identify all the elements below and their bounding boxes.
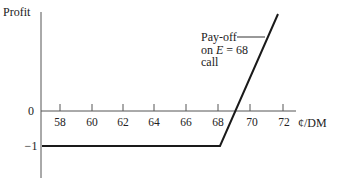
- tick-label: 70: [246, 116, 258, 128]
- annotation-line-1: Pay-off: [201, 30, 237, 44]
- x-axis-label: ¢/DM: [298, 116, 327, 130]
- x-ticks: [60, 104, 283, 111]
- tick-label: 66: [180, 116, 192, 128]
- x-tick-labels: 58 60 62 64 66 68 70 72: [54, 116, 290, 128]
- tick-label: 62: [117, 116, 129, 128]
- tick-label: 68: [212, 116, 224, 128]
- y-tick-zero: 0: [28, 104, 34, 118]
- tick-label: 64: [148, 116, 160, 128]
- annotation-line-3: call: [201, 55, 219, 69]
- y-tick-minus-one: −1: [25, 139, 38, 153]
- payoff-line: [42, 14, 278, 146]
- payoff-chart: 58 60 62 64 66 68 70 72 ¢/DM Profit 0 −1…: [0, 0, 341, 186]
- tick-label: 60: [86, 116, 98, 128]
- tick-label: 72: [278, 116, 290, 128]
- tick-label: 58: [54, 116, 66, 128]
- y-axis-label: Profit: [3, 5, 31, 19]
